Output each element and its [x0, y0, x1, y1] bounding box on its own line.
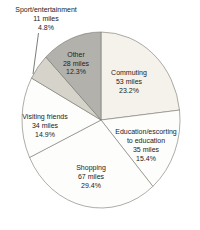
slice-name: Other [67, 51, 85, 58]
slice-percent: 12.3% [66, 68, 86, 75]
slice-name-line-2: to education [127, 137, 165, 144]
slice-percent: 15.4% [136, 155, 156, 162]
slice-miles: 53 miles [116, 78, 143, 85]
slice-miles: 11 miles [33, 15, 59, 22]
slice-name: Sport/entertainment [15, 6, 77, 14]
slice-percent: 29.4% [81, 182, 101, 189]
slice-percent: 4.8% [38, 24, 54, 31]
slice-name: Shopping [76, 164, 106, 172]
pie-slice-commuting [101, 32, 180, 120]
slice-percent: 14.9% [35, 131, 55, 138]
slice-miles: 28 miles [63, 60, 90, 67]
slice-name: Commuting [111, 69, 147, 77]
slice-name: Visiting friends [22, 113, 68, 121]
slice-miles: 34 miles [32, 122, 59, 129]
pie-chart: Sport/entertainment 11 miles 4.8% Other … [0, 0, 200, 230]
slice-percent: 23.2% [119, 87, 139, 94]
slice-miles: 35 miles [133, 146, 160, 153]
slice-miles: 67 miles [78, 173, 105, 180]
label-sport-entertainment: Sport/entertainment 11 miles 4.8% [15, 6, 77, 31]
slice-name-line-1: Education/escorting [115, 128, 177, 136]
